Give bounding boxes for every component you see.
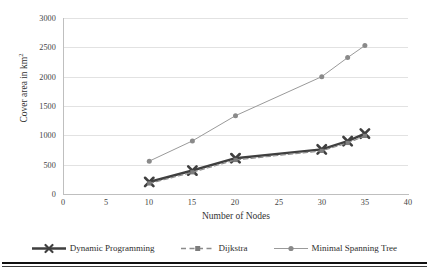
legend-item-minimal-spanning-tree[interactable]: Minimal Spanning Tree (274, 243, 398, 254)
legend-swatch-dijkstra (181, 243, 215, 254)
legend-label-dijkstra: Dijkstra (219, 243, 248, 253)
data-point-marker (147, 181, 151, 185)
data-point-marker (147, 159, 152, 164)
data-point-marker (319, 74, 324, 79)
data-point-marker (362, 43, 367, 48)
chart-legend: Dynamic Programming Dijkstra Minimal Spa… (0, 240, 429, 256)
series-line (149, 136, 365, 184)
legend-swatch-dynamic-programming (32, 243, 66, 254)
data-point-marker (233, 158, 237, 162)
data-point-marker (346, 141, 350, 145)
legend-label-minimal-spanning-tree: Minimal Spanning Tree (312, 243, 398, 253)
legend-label-dynamic-programming: Dynamic Programming (70, 243, 155, 253)
data-point-marker (233, 113, 238, 118)
data-point-marker (363, 134, 367, 138)
series-line (149, 46, 365, 162)
legend-swatch-minimal-spanning-tree (274, 243, 308, 254)
series-dijkstra (147, 134, 367, 186)
series-dynamic-programming (145, 129, 369, 186)
chart-figure: 3000 2500 2000 1500 1000 500 0 0 5 10 15… (0, 0, 429, 274)
series-layer (0, 0, 429, 274)
data-point-marker (190, 170, 194, 174)
data-point-marker (345, 55, 350, 60)
page-rule-thick (2, 262, 427, 264)
data-point-marker (320, 149, 324, 153)
page-rule-thin (2, 266, 427, 267)
legend-item-dijkstra[interactable]: Dijkstra (181, 243, 248, 254)
legend-item-dynamic-programming[interactable]: Dynamic Programming (32, 243, 155, 254)
data-point-marker (190, 138, 195, 143)
